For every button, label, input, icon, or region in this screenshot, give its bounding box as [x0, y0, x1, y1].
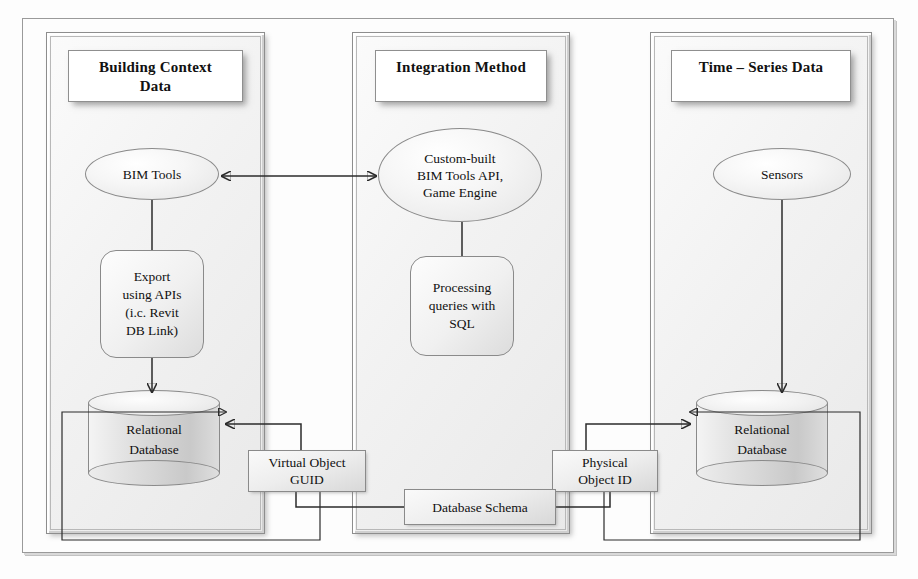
node-processing-queries-sql-label: Processing queries with SQL: [424, 279, 500, 333]
node-export-using-apis-label: Export using APIs (i.c. Revit DB Link): [118, 268, 187, 340]
panel-title-text: Time – Series Data: [699, 58, 824, 77]
node-virtual-object-guid: Virtual Object GUID: [248, 450, 366, 492]
node-custom-built-bim-api-label: Custom-built BIM Tools API, Game Engine: [411, 150, 509, 201]
node-physical-object-id-label: Physical Object ID: [574, 454, 636, 488]
panel-title-text: Building Context Data: [99, 58, 212, 96]
cylinder-bottom-ellipse: [696, 460, 828, 486]
panel-title-integration-method: Integration Method: [375, 50, 547, 102]
node-custom-built-bim-api: Custom-built BIM Tools API, Game Engine: [378, 128, 542, 222]
node-processing-queries-sql: Processing queries with SQL: [410, 256, 514, 356]
node-relational-database-right: Relational Database: [696, 390, 828, 486]
node-sensors: Sensors: [713, 148, 851, 200]
node-export-using-apis: Export using APIs (i.c. Revit DB Link): [100, 250, 204, 358]
panel-title-time-series-data: Time – Series Data: [671, 50, 851, 102]
panel-title-text: Integration Method: [396, 58, 526, 77]
node-relational-database-left: Relational Database: [88, 390, 220, 486]
node-bim-tools-label: BIM Tools: [117, 166, 187, 183]
node-sensors-label: Sensors: [755, 166, 809, 183]
node-relational-database-left-label: Relational Database: [88, 420, 220, 460]
diagram-canvas: Building Context Data BIM Tools Export u…: [0, 0, 918, 579]
node-relational-database-right-label: Relational Database: [696, 420, 828, 460]
node-bim-tools: BIM Tools: [85, 148, 219, 200]
cylinder-bottom-ellipse: [88, 460, 220, 486]
node-virtual-object-guid-label: Virtual Object GUID: [265, 454, 350, 488]
node-database-schema-label: Database Schema: [428, 499, 532, 516]
node-database-schema: Database Schema: [404, 489, 556, 525]
panel-title-building-context-data: Building Context Data: [68, 50, 243, 102]
node-physical-object-id: Physical Object ID: [552, 450, 658, 492]
cylinder-top-ellipse: [696, 390, 828, 416]
cylinder-top-ellipse: [88, 390, 220, 416]
